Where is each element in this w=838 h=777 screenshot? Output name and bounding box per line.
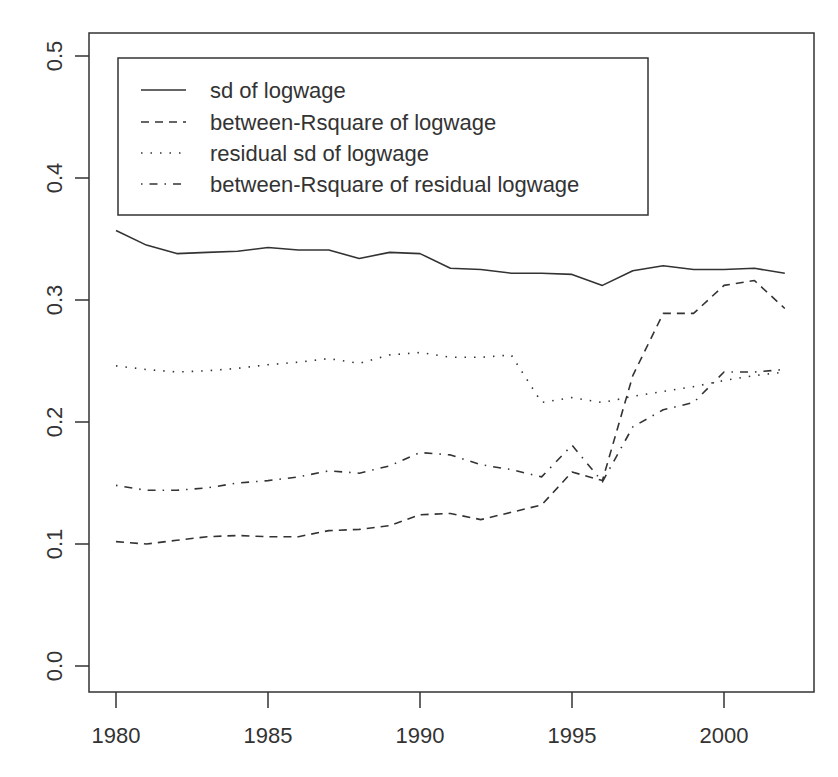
y-tick-label: 0.5 (42, 41, 67, 72)
series-dashed (116, 281, 785, 545)
series-dotted (116, 353, 785, 403)
legend-label-sd-logwage: sd of logwage (210, 78, 346, 103)
y-tick-label: 0.0 (42, 651, 67, 682)
x-tick-label: 1995 (548, 723, 597, 748)
legend-label-residual-sd-logwage: residual sd of logwage (210, 141, 429, 166)
legend: sd of logwage between-Rsquare of logwage… (118, 58, 648, 215)
x-tick-label: 2000 (700, 723, 749, 748)
x-tick-label: 1985 (244, 723, 293, 748)
y-axis: 0.00.10.20.30.40.5 (42, 41, 89, 682)
y-tick-label: 0.2 (42, 407, 67, 438)
series-group (116, 231, 785, 545)
y-tick-label: 0.1 (42, 529, 67, 560)
x-tick-label: 1980 (92, 723, 141, 748)
x-axis: 19801985199019952000 (92, 692, 749, 748)
series-solid (116, 231, 785, 286)
legend-label-between-rsquare-residual: between-Rsquare of residual logwage (210, 172, 579, 197)
legend-label-between-rsquare-logwage: between-Rsquare of logwage (210, 110, 496, 135)
line-chart: 0.00.10.20.30.40.5 19801985199019952000 … (0, 0, 838, 777)
y-tick-label: 0.4 (42, 163, 67, 194)
y-tick-label: 0.3 (42, 285, 67, 316)
x-tick-label: 1990 (396, 723, 445, 748)
